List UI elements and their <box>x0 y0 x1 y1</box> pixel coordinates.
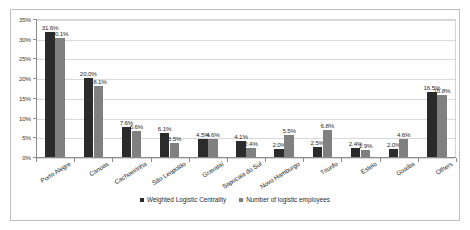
bar-slot: 20,0% <box>84 20 94 157</box>
bar-slot: 6.8% <box>323 20 333 157</box>
y-axis-tick-label: 15% <box>19 94 31 101</box>
bar[interactable]: 2.4% <box>246 148 256 157</box>
bar-slot: 30.1% <box>55 20 65 157</box>
bar-slot: 18.1% <box>94 20 104 157</box>
legend-item[interactable]: Number of logistic employees <box>239 196 330 203</box>
y-axis-tick <box>33 78 37 79</box>
x-axis-category-label: Triunfo <box>319 160 339 176</box>
bar[interactable]: 4.6% <box>208 139 218 157</box>
bar-value-label: 2.4% <box>244 140 258 147</box>
y-axis-tick-label: 5% <box>22 134 31 141</box>
bar[interactable]: 30.1% <box>55 38 65 157</box>
bar-slot: 4.6% <box>399 20 409 157</box>
bar[interactable]: 1.9% <box>361 150 371 157</box>
bar-value-label: 3.5% <box>168 135 182 142</box>
x-axis-category-label: São Leopoldo <box>150 160 186 186</box>
bar-group: 2.0%4.6% <box>389 20 409 157</box>
x-axis-category-label: Esteio <box>359 160 377 175</box>
bar-group: 4.1%2.4% <box>236 20 256 157</box>
bar[interactable]: 2.5% <box>313 147 323 157</box>
bar[interactable]: 7.6% <box>122 127 132 157</box>
bar[interactable]: 4.6% <box>399 139 409 157</box>
bar-group: 20,0%18.1% <box>84 20 104 157</box>
bar[interactable]: 2.0% <box>389 149 399 157</box>
bar[interactable]: 6.8% <box>323 130 333 157</box>
bar-group: 4.5%4.6% <box>198 20 218 157</box>
legend-label: Weighted Logistic Centrality <box>147 196 226 203</box>
bar-slot: 4.6% <box>208 20 218 157</box>
x-axis-category-label: Cachoeirinha <box>114 160 149 185</box>
bars-layer: 31.6%30.1%20,0%18.1%7.6%6.6%6.1%3.5%4.5%… <box>36 20 455 157</box>
bar-value-label: 15.8% <box>434 87 451 94</box>
x-axis-tick <box>456 158 457 162</box>
x-axis-category-label: Others <box>434 160 453 176</box>
bar[interactable]: 2.4% <box>351 148 361 157</box>
y-axis-tick-label: 10% <box>19 114 31 121</box>
y-axis-tick-label: 0% <box>22 154 31 161</box>
y-axis-tick <box>33 58 37 59</box>
bar-slot: 4.1% <box>236 20 246 157</box>
bar-slot: 5.5% <box>284 20 294 157</box>
bar-slot: 2.5% <box>313 20 323 157</box>
bar-group: 16.5%15.8% <box>427 20 447 157</box>
bar[interactable]: 2.0% <box>274 149 284 157</box>
plot-area: 31.6%30.1%20,0%18.1%7.6%6.6%6.1%3.5%4.5%… <box>36 19 456 157</box>
y-axis-tick <box>33 19 37 20</box>
y-axis-tick <box>33 137 37 138</box>
y-axis-tick-label: 30% <box>19 35 31 42</box>
bar-value-label: 18.1% <box>90 78 107 85</box>
bar[interactable]: 20,0% <box>84 78 94 157</box>
bar-slot: 7.6% <box>122 20 132 157</box>
legend-label: Number of logistic employees <box>246 196 330 203</box>
y-axis-tick <box>33 118 37 119</box>
y-axis: 0%5%10%15%20%25%30%35% <box>36 19 37 157</box>
y-axis-tick <box>33 98 37 99</box>
bar[interactable]: 31.6% <box>45 32 55 157</box>
bar-value-label: 30.1% <box>52 30 69 37</box>
bar[interactable]: 15.8% <box>437 95 447 157</box>
bar-group: 2.4%1.9% <box>351 20 371 157</box>
bar-slot: 2.4% <box>246 20 256 157</box>
bar[interactable]: 16.5% <box>427 92 437 157</box>
bar-slot: 15.8% <box>437 20 447 157</box>
x-axis-category-label: Gravataí <box>201 160 225 179</box>
bar[interactable]: 6.6% <box>132 131 142 157</box>
bar-slot: 6.6% <box>132 20 142 157</box>
legend-swatch-icon <box>140 198 144 202</box>
bar-value-label: 6.8% <box>321 122 335 129</box>
bar-slot: 2.0% <box>274 20 284 157</box>
bar-group: 7.6%6.6% <box>122 20 142 157</box>
x-axis-category-label: Canoas <box>88 160 110 177</box>
chart-legend: Weighted Logistic CentralityNumber of lo… <box>0 196 470 203</box>
y-axis-tick <box>33 39 37 40</box>
x-axis-category-label: Guaíba <box>394 160 415 177</box>
legend-item[interactable]: Weighted Logistic Centrality <box>140 196 226 203</box>
bar[interactable]: 3.5% <box>170 143 180 157</box>
bar-chart: 31.6%30.1%20,0%18.1%7.6%6.6%6.1%3.5%4.5%… <box>0 0 470 230</box>
x-axis-category-label: Novo Hamburgo <box>259 160 301 190</box>
y-axis-tick-label: 20% <box>19 75 31 82</box>
bar-slot: 3.5% <box>170 20 180 157</box>
bar[interactable]: 5.5% <box>284 135 294 157</box>
bar[interactable]: 18.1% <box>94 86 104 157</box>
bar-slot: 1.9% <box>361 20 371 157</box>
y-axis-tick-label: 25% <box>19 55 31 62</box>
legend-swatch-icon <box>239 198 243 202</box>
bar-value-label: 5.5% <box>282 127 296 134</box>
bar-value-label: 1.9% <box>359 142 373 149</box>
bar-group: 6.1%3.5% <box>160 20 180 157</box>
bar-slot: 31.6% <box>45 20 55 157</box>
x-axis-category-label: Sapucaia do Sul <box>221 160 263 190</box>
bar-slot: 2.4% <box>351 20 361 157</box>
bar-value-label: 6.6% <box>130 123 144 130</box>
bar-group: 31.6%30.1% <box>45 20 65 157</box>
x-axis-category-labels: Porto AlegreCanoasCachoeirinhaSão Leopol… <box>36 158 456 200</box>
y-axis-tick-label: 35% <box>19 16 31 23</box>
bar-group: 2.5%6.8% <box>313 20 333 157</box>
bar-group: 2.0%5.5% <box>274 20 294 157</box>
bar-value-label: 4.6% <box>397 131 411 138</box>
x-axis-category-label: Porto Alegre <box>39 160 72 184</box>
bar[interactable]: 4.5% <box>198 139 208 157</box>
bar-value-label: 4.6% <box>206 131 220 138</box>
